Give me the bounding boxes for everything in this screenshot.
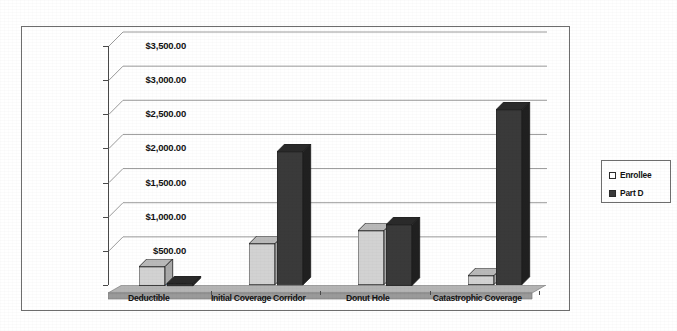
legend-item-label: Part D <box>620 188 643 198</box>
x-axis-category-label: Catastrophic Coverage <box>423 293 533 303</box>
legend-item-part-d[interactable]: Part D <box>609 188 643 198</box>
chart-legend: EnrolleePart D <box>601 160 671 203</box>
chart-frame: $3,500.00$3,000.00$2,500.00$2,000.00$1,5… <box>21 26 570 311</box>
plot-wall <box>108 46 546 285</box>
x-axis-category-label: Donut Hole <box>313 293 423 303</box>
plot-area: $3,500.00$3,000.00$2,500.00$2,000.00$1,5… <box>108 46 560 311</box>
x-axis-category-label: Deductible <box>94 293 204 303</box>
x-axis-tick-mark <box>539 291 540 295</box>
dark-gray-square-icon <box>609 190 616 197</box>
legend-item-label: Enrollee <box>620 170 651 180</box>
gridline <box>109 46 547 287</box>
bar-part-d <box>277 144 313 287</box>
x-axis-category-label: Initial Coverage Corridor <box>204 293 314 303</box>
light-gray-square-icon <box>609 172 616 179</box>
bar-part-d <box>496 102 532 287</box>
legend-item-enrollee[interactable]: Enrollee <box>609 170 651 180</box>
bar-part-d <box>167 276 203 288</box>
bar-part-d <box>386 217 422 287</box>
